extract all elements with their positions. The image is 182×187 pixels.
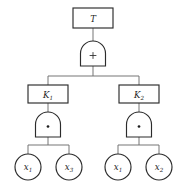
gate-k2-shape[interactable] [127, 112, 152, 137]
basic-event-x2-right[interactable]: x2 [146, 154, 172, 180]
gate-k1-shape[interactable] [36, 112, 61, 137]
gate-top[interactable]: + [81, 41, 106, 66]
basic-event-x1-left[interactable]: x1 [15, 154, 41, 180]
x3-left-label-sub: 3 [70, 167, 74, 173]
k1-label-sub: 1 [49, 95, 53, 101]
dot-icon [138, 125, 141, 128]
intermediate-event-k2[interactable]: K2 [119, 85, 159, 103]
basic-event-x3-left[interactable]: x3 [56, 154, 82, 180]
x1-left-label-sub: 1 [29, 167, 33, 173]
top-event-node[interactable]: T [73, 8, 113, 28]
fault-tree-diagram: T + K1 K2 · [0, 0, 182, 187]
dot-icon [47, 125, 50, 128]
gate-k2[interactable]: · [127, 112, 152, 137]
x1-right-label-sub: 1 [119, 167, 123, 173]
k2-label-sub: 2 [139, 95, 144, 101]
basic-event-x1-right[interactable]: x1 [105, 154, 131, 180]
gate-k1[interactable]: · [36, 112, 61, 137]
intermediate-event-k1[interactable]: K1 [28, 85, 68, 103]
x2-right-label-sub: 2 [159, 167, 164, 173]
